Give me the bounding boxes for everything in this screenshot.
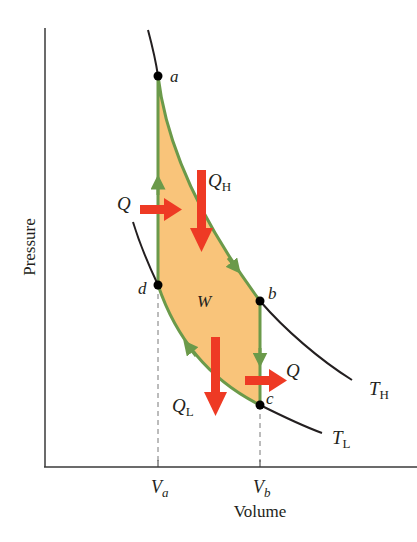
tick-label-vb: Vb (253, 477, 271, 500)
point-a (154, 72, 163, 81)
y-axis-label: Pressure (20, 218, 39, 276)
point-d (154, 281, 163, 290)
label-q-in: Q (117, 193, 131, 214)
x-axis-label: Volume (234, 502, 287, 521)
label-th: TH (369, 378, 389, 402)
label-d: d (138, 279, 147, 298)
label-q-out: Q (286, 360, 300, 381)
tick-label-va: Va (151, 477, 169, 500)
label-a: a (170, 67, 179, 86)
label-c: c (266, 389, 274, 408)
point-b (256, 297, 265, 306)
pv-diagram: a b c d W Q Q QH QL TH TL Va Vb Volume P… (0, 0, 417, 542)
label-tl: TL (332, 427, 351, 451)
label-qh: QH (208, 170, 231, 194)
label-b: b (268, 284, 277, 303)
work-region (158, 76, 260, 405)
label-work: W (197, 292, 213, 311)
point-c (256, 401, 265, 410)
label-ql: QL (172, 395, 194, 419)
